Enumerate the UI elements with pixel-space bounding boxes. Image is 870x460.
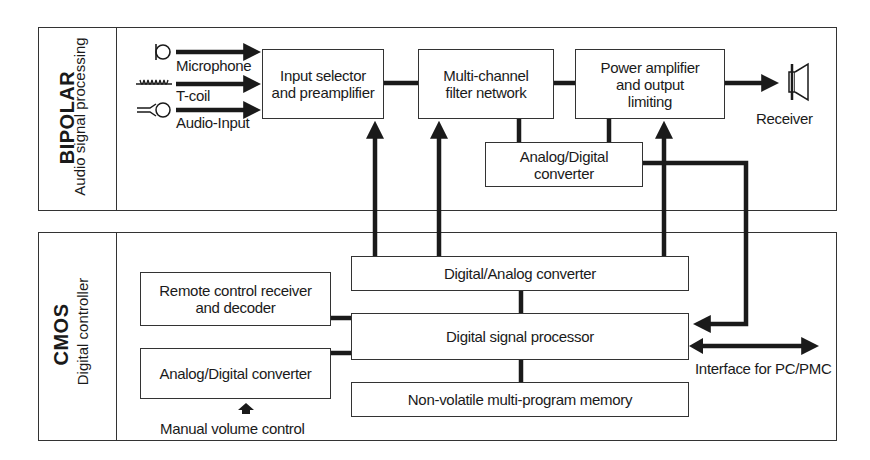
dac-label: Digital/Analog converter [444, 265, 596, 282]
input-label-audio-input: Audio-Input [176, 114, 249, 131]
upper-adc-label: Analog/Digital converter [514, 148, 614, 182]
manual-volume-label: Manual volume control [160, 420, 305, 437]
lower-adc-label: Analog/Digital converter [159, 365, 311, 382]
interface-label: Interface for PC/PMC [695, 360, 832, 377]
remote-control-label: Remote control receiver and decoder [156, 282, 316, 316]
upper-adc-block: Analog/Digital converter [485, 142, 643, 187]
multi-channel-filter-block: Multi-channel filter network [418, 49, 554, 119]
audio-input-jack-icon [137, 103, 170, 117]
power-amplifier-block: Power amplifier and output limiting [575, 49, 725, 119]
lower-adc-block: Analog/Digital converter [140, 348, 331, 399]
memory-label: Non-volatile multi-program memory [408, 391, 632, 408]
microphone-icon [156, 44, 170, 60]
input-selector-preamplifier-block: Input selector and preamplifier [262, 49, 384, 119]
receiver-label: Receiver [756, 110, 813, 127]
memory-block: Non-volatile multi-program memory [351, 382, 689, 417]
input-label-microphone: Microphone [176, 57, 251, 74]
power-amplifier-label: Power amplifier and output limiting [595, 59, 705, 110]
dac-block: Digital/Analog converter [351, 256, 689, 291]
dsp-block: Digital signal processor [351, 313, 689, 360]
t-coil-icon [136, 80, 172, 84]
speaker-receiver-icon [789, 64, 808, 100]
input-label-t-coil: T-coil [176, 87, 210, 104]
dsp-label: Digital signal processor [446, 328, 594, 345]
input-selector-label: Input selector and preamplifier [268, 67, 378, 101]
filter-network-label: Multi-channel filter network [436, 67, 536, 101]
remote-control-block: Remote control receiver and decoder [140, 272, 331, 326]
